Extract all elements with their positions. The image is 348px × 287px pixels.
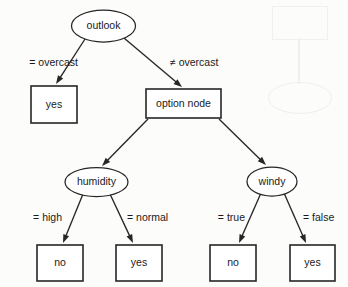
tree-node-leaf-yes-2[interactable]: yes xyxy=(116,245,162,281)
edge-label-e5: = high xyxy=(33,211,62,223)
node-label: yes xyxy=(304,256,320,268)
tree-node-leaf-yes-3[interactable]: yes xyxy=(290,245,335,281)
node-label: humidity xyxy=(77,175,117,187)
node-label: outlook xyxy=(87,19,122,31)
tree-node-windy[interactable]: windy xyxy=(247,167,297,196)
tree-canvas: outlookyesoption nodehumiditywindynoyesn… xyxy=(0,0,348,287)
edge-label-e7: = true xyxy=(218,211,245,223)
node-label: yes xyxy=(46,98,62,110)
edge-label-e6: = normal xyxy=(127,211,168,223)
node-label: yes xyxy=(131,256,147,268)
node-label: no xyxy=(54,256,66,268)
edge-label-e1: = overcast xyxy=(29,56,78,68)
tree-node-leaf-no-2[interactable]: no xyxy=(37,245,83,281)
tree-node-leaf-yes-1[interactable]: yes xyxy=(31,86,77,123)
edges-layer xyxy=(56,38,306,243)
node-label: no xyxy=(227,256,239,268)
edge-label-e8: = false xyxy=(303,211,334,223)
tree-node-option-node[interactable]: option node xyxy=(146,89,221,118)
tree-edge-option-node-to-humidity xyxy=(102,119,148,166)
decision-tree-figure: outlookyesoption nodehumiditywindynoyesn… xyxy=(0,0,348,287)
edge-label-e2: ≠ overcast xyxy=(170,56,218,68)
tree-node-outlook[interactable]: outlook xyxy=(72,10,136,42)
edge-labels-layer: = overcast≠ overcast= high= normal= true… xyxy=(29,56,334,223)
nodes-layer: outlookyesoption nodehumiditywindynoyesn… xyxy=(31,10,335,281)
tree-edge-option-node-to-windy xyxy=(219,119,266,165)
tree-edge-humidity-to-leaf-no-2 xyxy=(63,194,83,243)
tree-node-leaf-no-3[interactable]: no xyxy=(210,245,256,281)
node-label: option node xyxy=(156,97,211,109)
tree-node-humidity[interactable]: humidity xyxy=(65,168,128,197)
node-label: windy xyxy=(258,175,287,187)
